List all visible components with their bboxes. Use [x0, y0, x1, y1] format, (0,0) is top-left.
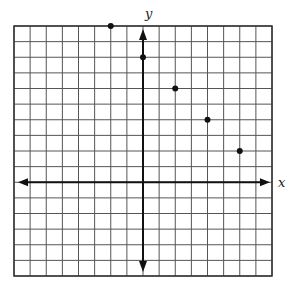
coordinate-plane: x y — [0, 0, 302, 293]
data-point — [205, 117, 211, 123]
y-axis-down-arrow-icon — [139, 261, 147, 272]
y-axis-up-arrow-icon — [139, 29, 147, 40]
x-axis-label: x — [278, 175, 286, 190]
y-axis-label: y — [144, 6, 153, 21]
x-axis-left-arrow-icon — [18, 178, 28, 186]
x-axis-right-arrow-icon — [260, 178, 270, 186]
data-point — [140, 54, 146, 60]
data-point — [237, 148, 243, 154]
data-point — [108, 23, 114, 29]
data-point — [172, 86, 178, 92]
